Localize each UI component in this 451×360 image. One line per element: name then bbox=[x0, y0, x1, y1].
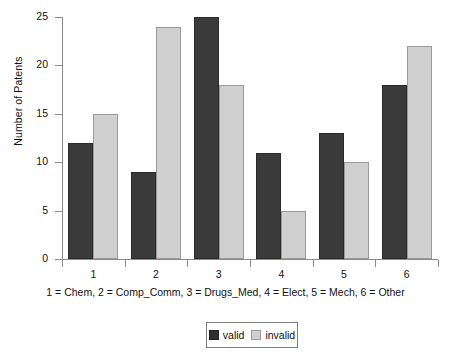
x-tick-label: 3 bbox=[199, 268, 239, 280]
y-tick-mark bbox=[55, 65, 62, 66]
legend-swatch-icon-invalid bbox=[251, 330, 261, 340]
y-tick-label: 15 bbox=[0, 107, 48, 119]
bar-invalid-6 bbox=[407, 46, 432, 259]
bar-valid-5 bbox=[319, 133, 344, 259]
x-tick-mark bbox=[313, 260, 314, 267]
bar-invalid-2 bbox=[156, 27, 181, 259]
x-tick-mark bbox=[62, 260, 63, 267]
x-tick-mark bbox=[187, 260, 188, 267]
category-key-caption: 1 = Chem, 2 = Comp_Comm, 3 = Drugs_Med, … bbox=[0, 286, 451, 298]
legend-label-invalid: invalid bbox=[265, 329, 295, 341]
bar-invalid-4 bbox=[281, 211, 306, 259]
bar-valid-3 bbox=[194, 17, 219, 259]
y-tick-label: 20 bbox=[0, 58, 48, 70]
legend-swatch-icon-valid bbox=[209, 330, 219, 340]
chart-legend: valid invalid bbox=[206, 322, 298, 348]
bar-valid-1 bbox=[68, 143, 93, 259]
x-tick-label: 5 bbox=[324, 268, 364, 280]
y-tick-label: 0 bbox=[0, 252, 48, 264]
bar-valid-6 bbox=[382, 85, 407, 259]
y-tick-mark bbox=[55, 114, 62, 115]
legend-label-valid: valid bbox=[223, 329, 245, 341]
x-tick-label: 2 bbox=[136, 268, 176, 280]
x-tick-mark bbox=[125, 260, 126, 267]
x-tick-mark bbox=[375, 260, 376, 267]
x-tick-label: 6 bbox=[387, 268, 427, 280]
y-tick-label: 25 bbox=[0, 10, 48, 22]
y-tick-mark bbox=[55, 211, 62, 212]
x-tick-mark bbox=[438, 260, 439, 267]
plot-area bbox=[62, 17, 438, 259]
y-tick-label: 10 bbox=[0, 155, 48, 167]
legend-item-valid: valid bbox=[209, 329, 245, 341]
bar-invalid-1 bbox=[93, 114, 118, 259]
legend-item-invalid: invalid bbox=[251, 329, 295, 341]
x-tick-label: 1 bbox=[73, 268, 113, 280]
bar-invalid-3 bbox=[219, 85, 244, 259]
y-tick-mark bbox=[55, 162, 62, 163]
bar-valid-4 bbox=[256, 153, 281, 259]
y-tick-mark bbox=[55, 17, 62, 18]
y-tick-mark bbox=[55, 259, 62, 260]
x-tick-label: 4 bbox=[261, 268, 301, 280]
bar-chart-figure: Number of Patents 0510152025 123456 1 = … bbox=[0, 0, 451, 360]
bar-valid-2 bbox=[131, 172, 156, 259]
y-tick-label: 5 bbox=[0, 204, 48, 216]
x-tick-mark bbox=[250, 260, 251, 267]
bar-invalid-5 bbox=[344, 162, 369, 259]
